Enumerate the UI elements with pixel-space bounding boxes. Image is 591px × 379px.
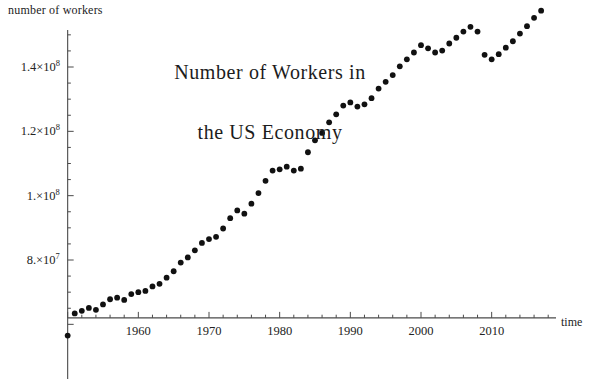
chart-title: Number of Workers in the US Economy (120, 27, 420, 177)
data-point (128, 291, 134, 297)
data-point (100, 301, 106, 307)
y-tick-exponent: 8 (56, 122, 60, 132)
data-point (157, 281, 163, 287)
data-point (263, 178, 269, 184)
data-point (461, 29, 467, 35)
data-point (227, 215, 233, 221)
x-tick-label: 1970 (197, 324, 222, 339)
data-point (192, 247, 198, 253)
data-point (432, 50, 438, 56)
data-point (425, 45, 431, 51)
data-point (446, 41, 452, 47)
data-point (234, 208, 240, 214)
data-point (220, 226, 226, 232)
data-point (510, 38, 516, 44)
data-point (72, 311, 78, 317)
data-point (213, 234, 219, 240)
y-tick-exponent: 8 (56, 187, 60, 197)
y-tick-base: 10 (43, 189, 56, 203)
x-tick-label: 1960 (126, 324, 151, 339)
chart-title-line-2: the US Economy (120, 117, 420, 147)
y-tick-label: 1.4×108 (21, 58, 60, 75)
data-point (517, 31, 523, 37)
y-tick-exponent: 8 (56, 58, 60, 68)
data-point (496, 51, 502, 57)
data-point (65, 333, 71, 339)
x-tick-label: 1990 (338, 324, 363, 339)
y-tick-exponent: 7 (56, 251, 60, 261)
y-tick-label: 8.×107 (27, 251, 60, 268)
y-tick-base: 10 (43, 253, 56, 267)
data-point (249, 201, 255, 207)
x-tick-label: 2010 (479, 324, 504, 339)
data-point (256, 190, 262, 196)
data-point (121, 297, 127, 303)
y-tick-mantissa: 8. (27, 253, 36, 267)
y-tick-mantissa: 1. (27, 189, 36, 203)
data-point (150, 283, 156, 289)
data-point (135, 289, 141, 295)
data-point (79, 308, 85, 314)
y-tick-label: 1.2×108 (21, 122, 60, 139)
chart-figure: number of workers time Number of Workers… (0, 0, 591, 379)
data-point (206, 236, 212, 242)
data-point (199, 240, 205, 246)
data-point (178, 260, 184, 266)
data-point (503, 45, 509, 51)
x-tick-label: 2000 (409, 324, 434, 339)
data-point (241, 211, 247, 217)
data-point (86, 305, 92, 311)
x-axis-label: time (561, 315, 582, 330)
y-tick-label: 1.×108 (27, 187, 60, 204)
data-point (171, 268, 177, 274)
data-point (114, 295, 120, 301)
data-point (439, 48, 445, 54)
data-point (531, 15, 537, 21)
data-point (524, 23, 530, 29)
y-tick-base: 10 (43, 124, 56, 138)
data-point (185, 255, 191, 261)
y-tick-base: 10 (43, 60, 56, 74)
x-tick-label: 1980 (267, 324, 292, 339)
data-point (482, 52, 488, 58)
data-point (93, 307, 99, 313)
y-tick-mantissa: 1.4 (21, 60, 37, 74)
data-point (475, 29, 481, 35)
data-point (453, 35, 459, 41)
data-point (468, 24, 474, 30)
y-tick-mantissa: 1.2 (21, 124, 37, 138)
data-point (143, 288, 149, 294)
data-point (107, 296, 113, 302)
data-point (538, 8, 544, 14)
chart-title-line-1: Number of Workers in (120, 57, 420, 87)
data-point (489, 56, 495, 62)
data-point (164, 275, 170, 281)
y-axis-label: number of workers (8, 3, 103, 18)
